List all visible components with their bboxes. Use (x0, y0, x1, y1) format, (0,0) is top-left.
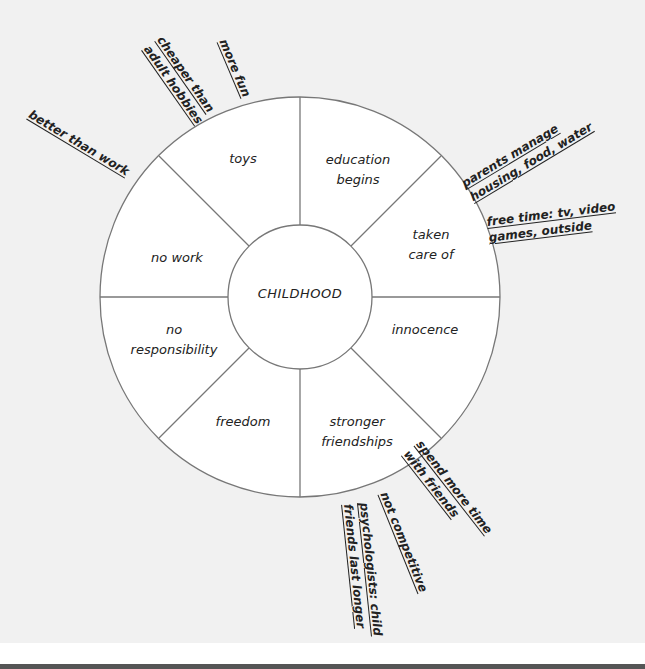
segment-stronger-friendships: stronger friendships (321, 412, 393, 452)
segment-line: education (326, 150, 391, 170)
segment-line: toys (229, 149, 257, 169)
segment-freedom: freedom (216, 412, 271, 432)
center-label: CHILDHOOD (258, 286, 343, 301)
segment-line: taken (408, 225, 453, 245)
concept-wheel (0, 0, 645, 669)
segment-line: innocence (392, 320, 459, 340)
segment-innocence: innocence (392, 320, 459, 340)
segment-line: begins (326, 170, 391, 190)
segment-toys: toys (229, 149, 257, 169)
segment-line: friendships (321, 432, 393, 452)
segment-line: no work (151, 248, 203, 268)
segment-no-work: no work (151, 248, 203, 268)
segment-line: freedom (216, 412, 271, 432)
segment-taken-care-of: taken care of (408, 225, 453, 265)
segment-line: no (131, 320, 218, 340)
segment-education-begins: education begins (326, 150, 391, 190)
segment-line: responsibility (131, 340, 218, 360)
segment-no-responsibility: no responsibility (131, 320, 218, 360)
segment-line: stronger (321, 412, 393, 432)
segment-line: care of (408, 245, 453, 265)
